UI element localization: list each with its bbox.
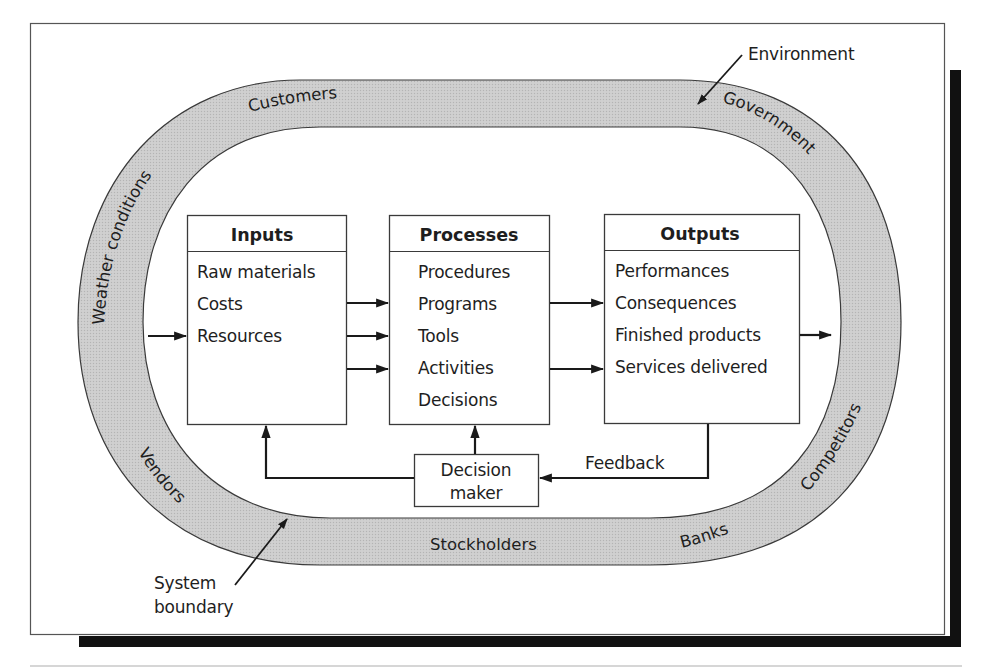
outputs-item: Performances: [615, 261, 730, 281]
outputs-item: Consequences: [615, 293, 737, 313]
decision-maker-line2: maker: [450, 483, 503, 503]
inputs-item: Resources: [197, 326, 282, 346]
processes-header: Processes: [420, 225, 519, 245]
outputs-header: Outputs: [660, 224, 739, 244]
decision-maker-line1: Decision: [441, 460, 512, 480]
frame-shadow-right: [950, 70, 961, 647]
inputs-item: Raw materials: [197, 262, 316, 282]
decision-maker-box: Decision maker: [415, 455, 539, 507]
processes-item: Programs: [418, 294, 497, 314]
processes-item: Tools: [417, 326, 459, 346]
frame-shadow-bottom: [79, 636, 961, 647]
system-diagram: Customers Weather conditions Government …: [0, 0, 982, 668]
environment-label: Environment: [748, 44, 855, 64]
ring-label-stockholders: Stockholders: [430, 535, 537, 554]
outputs-item: Finished products: [615, 325, 761, 345]
outputs-item: Services delivered: [615, 357, 768, 377]
inputs-header: Inputs: [231, 225, 294, 245]
system-boundary-label-line1: System: [154, 573, 216, 593]
inputs-item: Costs: [197, 294, 243, 314]
feedback-label: Feedback: [585, 453, 665, 473]
processes-item: Activities: [418, 358, 494, 378]
processes-item: Decisions: [418, 390, 498, 410]
processes-item: Procedures: [418, 262, 511, 282]
processes-box: Processes Procedures Programs Tools Acti…: [390, 216, 550, 425]
inputs-box: Inputs Raw materials Costs Resources: [188, 216, 347, 425]
outputs-box: Outputs Performances Consequences Finish…: [605, 215, 800, 424]
system-boundary-label-line2: boundary: [154, 597, 234, 617]
